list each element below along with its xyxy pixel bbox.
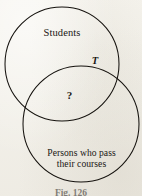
passers-set-label: Persons who passtheir courses [0,147,142,170]
intersection-question-mark-label: ? [0,89,139,102]
passers-set-label-line-1: Persons who pass [47,147,116,158]
figure-caption: Fig. 126 [0,188,142,196]
venn-diagram-figure: Students T ? Persons who passtheir cours… [0,0,142,196]
boundary-point-label-t: T [0,55,142,67]
passers-set-label-line-2: their courses [0,158,142,169]
students-set-label: Students [0,27,124,39]
